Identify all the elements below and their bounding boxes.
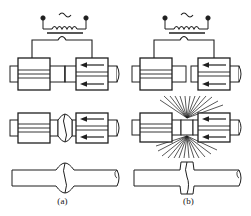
primary-lead-left-b	[165, 20, 174, 29]
ac-symbol-b	[181, 13, 193, 17]
primary-lead-left-a	[43, 20, 52, 29]
movable-electrode-clamp-a1	[76, 58, 108, 90]
primary-lead-right-a	[77, 20, 86, 29]
terminal-dot-right-a	[84, 16, 88, 20]
panel-a-stage-3	[0, 160, 125, 200]
finished-weld-a3	[12, 163, 119, 193]
primary-coil-a	[52, 27, 77, 30]
panel-b-stage-2	[126, 96, 251, 158]
movable-electrode-clamp-a2	[76, 113, 108, 143]
terminal-dot-left-a	[41, 16, 45, 20]
movable-electrode-clamp-b1	[198, 58, 230, 90]
primary-coil-b	[174, 27, 199, 30]
workpiece-right-end-a2	[117, 120, 119, 136]
figure-root: (a)	[0, 0, 251, 216]
panel-b-stage-1	[126, 0, 251, 100]
primary-lead-right-b	[199, 20, 208, 29]
workpiece-right-end-b1	[239, 66, 241, 82]
upset-bulge-a2	[58, 114, 72, 142]
panel-a: (a)	[0, 0, 125, 216]
panel-b: (b)	[126, 0, 251, 216]
ac-symbol-a	[59, 13, 71, 17]
finished-weld-b3	[134, 162, 241, 194]
panel-a-stage-1	[0, 0, 125, 100]
panel-a-stage-2	[0, 104, 125, 152]
terminal-dot-right-b	[206, 16, 210, 20]
fixed-electrode-clamp-b2	[140, 113, 172, 142]
caption-b: (b)	[126, 196, 251, 206]
fixed-electrode-clamp-a2	[18, 113, 50, 143]
panel-b-stage-3	[126, 160, 251, 200]
fixed-electrode-clamp-b1	[140, 58, 172, 90]
secondary-loop-b	[154, 37, 214, 59]
panel-divider	[125, 0, 126, 216]
flashing-interface-b2	[181, 120, 193, 135]
fixed-electrode-clamp-a1	[18, 58, 50, 90]
caption-a: (a)	[0, 196, 125, 206]
secondary-loop-a	[32, 37, 92, 59]
workpiece-right-end-b2	[239, 120, 241, 135]
movable-electrode-clamp-b2	[198, 113, 230, 142]
terminal-dot-left-b	[163, 16, 167, 20]
workpiece-right-end-a1	[117, 66, 119, 82]
